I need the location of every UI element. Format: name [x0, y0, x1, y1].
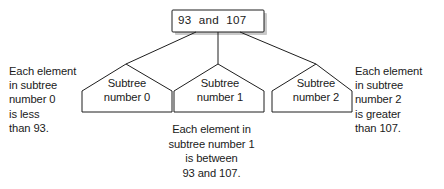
subtree-label-0: Subtree number 0 [85, 76, 169, 104]
subtree-label-1: Subtree number 1 [178, 76, 262, 104]
edge-root-to-subtree-0 [126, 32, 196, 64]
annotation-right: Each element in subtree number 2 is grea… [355, 64, 422, 135]
btree-diagram: 93 and 107 Subtree number 0 Subtree numb… [0, 0, 444, 189]
root-node-label: 93 and 107 [178, 13, 247, 26]
annotation-center: Each element in subtree number 1 is betw… [144, 122, 279, 180]
annotation-left: Each element in subtree number 0 is less… [9, 64, 76, 135]
edge-root-to-subtree-2 [240, 32, 316, 64]
subtree-label-2: Subtree number 2 [275, 76, 357, 104]
